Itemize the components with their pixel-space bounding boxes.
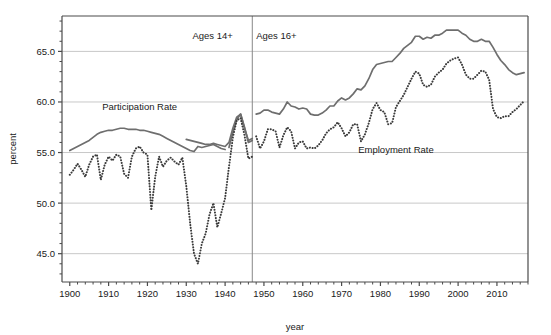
chart-root: 45.050.055.060.065.019001910192019301940…	[0, 0, 551, 335]
ytick-label-45: 45.0	[37, 248, 56, 259]
xtick-label-1940: 1940	[215, 288, 236, 299]
ages-16-plus: Ages 16+	[256, 30, 297, 41]
xtick-label-1920: 1920	[137, 288, 158, 299]
xtick-label-1970: 1970	[331, 288, 352, 299]
xtick-label-1900: 1900	[59, 288, 80, 299]
ytick-label-60: 60.0	[37, 96, 56, 107]
xtick-label-1980: 1980	[370, 288, 391, 299]
ytick-label-65: 65.0	[37, 46, 56, 57]
xtick-label-1950: 1950	[253, 288, 274, 299]
xtick-label-1960: 1960	[292, 288, 313, 299]
x-axis-title: year	[286, 321, 304, 332]
ytick-label-55: 55.0	[37, 147, 56, 158]
xtick-label-2010: 2010	[486, 288, 507, 299]
participation-rate-label: Participation Rate	[102, 101, 177, 112]
xtick-label-1910: 1910	[98, 288, 119, 299]
ytick-label-50: 50.0	[37, 198, 56, 209]
employment-participation-chart: 45.050.055.060.065.019001910192019301940…	[0, 0, 551, 335]
y-axis-title: percent	[7, 133, 18, 165]
ages-14-plus: Ages 14+	[192, 30, 233, 41]
xtick-label-1990: 1990	[409, 288, 430, 299]
xtick-label-1930: 1930	[176, 288, 197, 299]
xtick-label-2000: 2000	[448, 288, 469, 299]
employment-rate-label: Employment Rate	[358, 144, 434, 155]
